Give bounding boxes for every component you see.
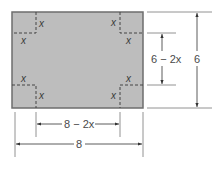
label-x-top-right-side: x: [110, 17, 117, 28]
label-x-bottom-right-top: x: [125, 73, 132, 84]
label-inner-width: 8 − 2x: [64, 118, 95, 130]
label-outer-height: 6: [194, 53, 200, 65]
label-outer-width: 8: [76, 138, 82, 150]
label-x-top-right-bottom: x: [125, 35, 132, 46]
label-x-top-left-side: x: [38, 18, 45, 29]
label-x-bottom-left-top: x: [20, 73, 27, 84]
label-x-bottom-left-side: x: [38, 90, 45, 101]
label-x-bottom-right-side: x: [110, 90, 117, 101]
cut-corner-box-diagram: x x x x x x x x 6 − 2x 6 8 − 2x 8: [0, 0, 224, 186]
sheet-rectangle: [12, 12, 143, 108]
label-x-top-left-bottom: x: [20, 35, 27, 46]
label-inner-height: 6 − 2x: [151, 53, 182, 65]
